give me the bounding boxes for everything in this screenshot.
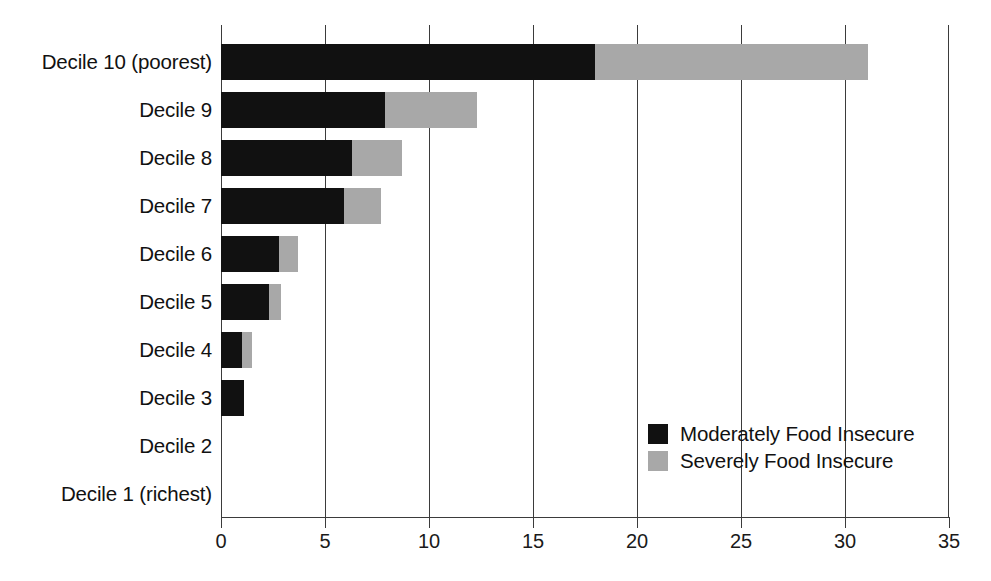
x-axis-tick-label-5: 5 xyxy=(320,530,331,553)
y-axis-label-decile-7: Decile 7 xyxy=(0,194,212,218)
gridline-20 xyxy=(637,25,638,517)
bar-segment-moderate xyxy=(221,140,352,176)
x-axis-tick-label-20: 20 xyxy=(626,530,648,553)
x-axis-line xyxy=(221,517,950,518)
legend-swatch-moderate-icon xyxy=(648,424,668,444)
legend-label-moderate: Moderately Food Insecure xyxy=(680,422,915,446)
y-axis-label-decile-9: Decile 9 xyxy=(0,98,212,122)
gridline-15 xyxy=(533,25,534,517)
bar-segment-severe xyxy=(385,92,477,128)
y-axis-labels: Decile 10 (poorest) Decile 9 Decile 8 De… xyxy=(0,0,212,581)
x-axis-tick-label-10: 10 xyxy=(418,530,440,553)
bar-segment-moderate xyxy=(221,284,269,320)
x-axis-tick xyxy=(949,517,950,528)
bar-segment-moderate xyxy=(221,188,344,224)
bar-segment-moderate xyxy=(221,332,242,368)
x-axis-tick-label-25: 25 xyxy=(730,530,752,553)
x-axis-tick xyxy=(533,517,534,528)
y-axis-label-decile-2: Decile 2 xyxy=(0,434,212,458)
legend: Moderately Food Insecure Severely Food I… xyxy=(648,420,915,474)
bar-segment-severe xyxy=(269,284,281,320)
bar-segment-severe xyxy=(344,188,381,224)
bar-segment-moderate xyxy=(221,380,244,416)
x-axis-tick-label-0: 0 xyxy=(216,530,227,553)
x-axis-tick-label-35: 35 xyxy=(938,530,960,553)
x-axis-tick xyxy=(221,517,222,528)
y-axis-label-decile-5: Decile 5 xyxy=(0,290,212,314)
y-axis-label-decile-6: Decile 6 xyxy=(0,242,212,266)
legend-swatch-severe-icon xyxy=(648,451,668,471)
chart-container: Decile 10 (poorest) Decile 9 Decile 8 De… xyxy=(0,0,991,581)
x-axis-tick xyxy=(637,517,638,528)
x-axis-tick xyxy=(741,517,742,528)
legend-item-severely-food-insecure: Severely Food Insecure xyxy=(648,447,915,474)
gridline-35 xyxy=(948,25,949,517)
bar-segment-severe xyxy=(279,236,298,272)
x-axis-tick-label-30: 30 xyxy=(834,530,856,553)
y-axis-label-decile-4: Decile 4 xyxy=(0,338,212,362)
x-axis-tick-label-15: 15 xyxy=(522,530,544,553)
y-axis-label-decile-8: Decile 8 xyxy=(0,146,212,170)
bar-segment-severe xyxy=(242,332,252,368)
y-axis-label-decile-1: Decile 1 (richest) xyxy=(0,482,212,506)
bar-segment-severe xyxy=(352,140,402,176)
legend-item-moderately-food-insecure: Moderately Food Insecure xyxy=(648,420,915,447)
bar-segment-moderate xyxy=(221,92,385,128)
x-axis-tick xyxy=(845,517,846,528)
legend-label-severe: Severely Food Insecure xyxy=(680,449,893,473)
y-axis-label-decile-10: Decile 10 (poorest) xyxy=(0,50,212,74)
bar-segment-moderate xyxy=(221,44,595,80)
x-axis-tick xyxy=(325,517,326,528)
bar-segment-severe xyxy=(595,44,868,80)
bar-segment-moderate xyxy=(221,236,279,272)
x-axis-tick xyxy=(429,517,430,528)
y-axis-label-decile-3: Decile 3 xyxy=(0,386,212,410)
